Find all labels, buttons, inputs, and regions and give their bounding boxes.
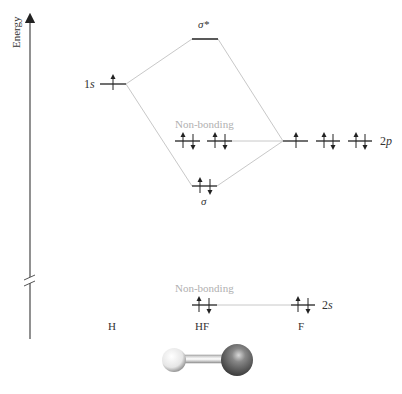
energy-axis <box>24 18 35 339</box>
f-2s-level <box>291 296 315 314</box>
sigma-label: σ <box>201 195 207 207</box>
hf-molecule-model <box>162 344 253 376</box>
energy-axis-label: Energy <box>10 16 22 48</box>
atom-label-h: H <box>108 320 116 332</box>
f-2s-label: 2s <box>322 298 333 312</box>
nonbonding-2p-label: Non-bonding <box>175 118 234 130</box>
nonbonding-2s-label: Non-bonding <box>175 282 234 294</box>
f-atom-sphere <box>221 344 253 376</box>
orbital-pair <box>207 132 232 150</box>
orbital-pair <box>175 132 200 150</box>
h-1s-level <box>100 74 126 90</box>
atom-label-f: F <box>298 320 304 332</box>
nonbonding-2p-level <box>175 132 232 150</box>
atom-label-hf: HF <box>195 320 209 332</box>
f-2p-level <box>283 132 372 150</box>
f-2p-label: 2p <box>380 134 392 148</box>
sigma-star-label: σ* <box>198 18 209 30</box>
nonbonding-2s-level <box>192 296 217 314</box>
correlation-lines <box>126 39 291 305</box>
mo-diagram: Energy 1s σ* Non-bonding <box>0 0 402 394</box>
orbital-pair <box>348 132 372 150</box>
orbital-single <box>283 132 308 148</box>
h-atom-sphere <box>162 348 186 372</box>
sigma-level <box>192 177 217 195</box>
orbital-pair <box>316 132 340 150</box>
h-1s-label: 1s <box>84 77 95 91</box>
